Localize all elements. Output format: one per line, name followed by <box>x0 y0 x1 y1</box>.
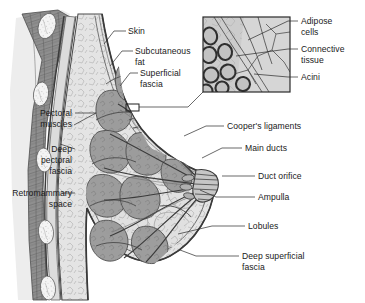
label-deep-pectoral-fascia-line3: fascia <box>49 166 72 176</box>
label-deep-superficial-fascia-line2: fascia <box>242 262 265 272</box>
label-coopers-ligaments: Cooper's ligaments <box>227 121 301 131</box>
label-skin: Skin <box>128 26 145 36</box>
breast-anatomy-figure: Skin Subcutaneous fat Superficial fascia… <box>0 0 365 303</box>
label-pectoral-muscles-line2: muscles <box>40 119 72 129</box>
label-deep-pectoral-fascia-line2: pectoral <box>41 155 72 165</box>
label-deep-superficial-fascia-line1: Deep superficial <box>242 251 304 261</box>
label-superficial-fascia-line1: Superficial <box>140 68 181 78</box>
label-lobules: Lobules <box>248 221 278 231</box>
label-adipose-cells-line1: Adipose <box>301 16 333 26</box>
label-subcutaneous-fat-line2: fat <box>135 57 145 67</box>
label-connective-tissue-line2: tissue <box>301 55 324 65</box>
label-superficial-fascia-line2: fascia <box>140 79 163 89</box>
label-deep-pectoral-fascia-line1: Deep <box>51 144 72 154</box>
label-connective-tissue-line1: Connective <box>301 44 345 54</box>
label-pectoral-muscles-line1: Pectoral <box>40 108 72 118</box>
label-ampulla: Ampulla <box>258 192 290 202</box>
anatomy-illustration: Skin Subcutaneous fat Superficial fascia… <box>0 0 365 303</box>
acinus <box>235 76 250 91</box>
label-duct-orifice: Duct orifice <box>258 171 302 181</box>
label-main-ducts: Main ducts <box>245 143 287 153</box>
label-retromammary-space-line1: Retromammary <box>12 188 72 198</box>
label-acini: Acini <box>301 72 320 82</box>
label-retromammary-space-line2: space <box>49 199 72 209</box>
label-adipose-cells-line2: cells <box>301 27 318 37</box>
inset-contents <box>198 17 290 99</box>
acinus <box>217 43 233 60</box>
label-subcutaneous-fat-line1: Subcutaneous <box>135 46 191 56</box>
